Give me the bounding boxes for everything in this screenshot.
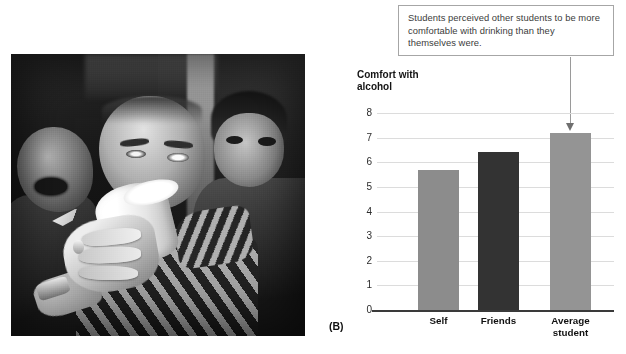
- y-axis-tick-label-1: 1: [357, 279, 372, 290]
- bar-self: [418, 170, 459, 310]
- x-axis-line: [372, 310, 614, 312]
- y-axis-tick-label-3: 3: [357, 230, 372, 241]
- y-axis-tick-label-7: 7: [357, 132, 372, 143]
- y-axis-title: Comfort with alcohol: [357, 69, 467, 93]
- y-axis-tick-label-4: 4: [357, 206, 372, 217]
- y-axis-tick-label-5: 5: [357, 181, 372, 192]
- y-axis-title-line-1: Comfort with: [357, 69, 419, 80]
- y-axis-title-line-2: alcohol: [357, 81, 392, 92]
- gridline-8: [377, 113, 614, 114]
- x-axis-label-average-student: Averagestudent: [532, 315, 610, 339]
- y-axis-tick-label-2: 2: [357, 255, 372, 266]
- x-axis-label-friends: Friends: [460, 315, 538, 327]
- bar-average-student: [550, 133, 591, 310]
- y-axis-tick-label-8: 8: [357, 107, 372, 118]
- bar-chart: Comfort with alcohol 012345678 SelfFrien…: [0, 0, 626, 354]
- y-axis-tick-label-6: 6: [357, 156, 372, 167]
- panel-label: (B): [329, 320, 344, 332]
- bar-friends: [478, 152, 519, 310]
- y-axis-tick-label-0: 0: [357, 304, 372, 315]
